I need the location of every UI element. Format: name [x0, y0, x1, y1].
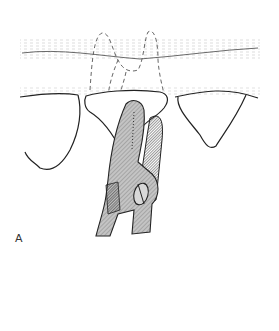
left-tooth [25, 95, 80, 169]
forceps-joint-gap [106, 182, 120, 214]
panel-label: A [15, 232, 23, 245]
dental-forceps-illustration [0, 0, 279, 331]
gingiva-upper [20, 38, 260, 60]
right-tooth [178, 95, 246, 148]
